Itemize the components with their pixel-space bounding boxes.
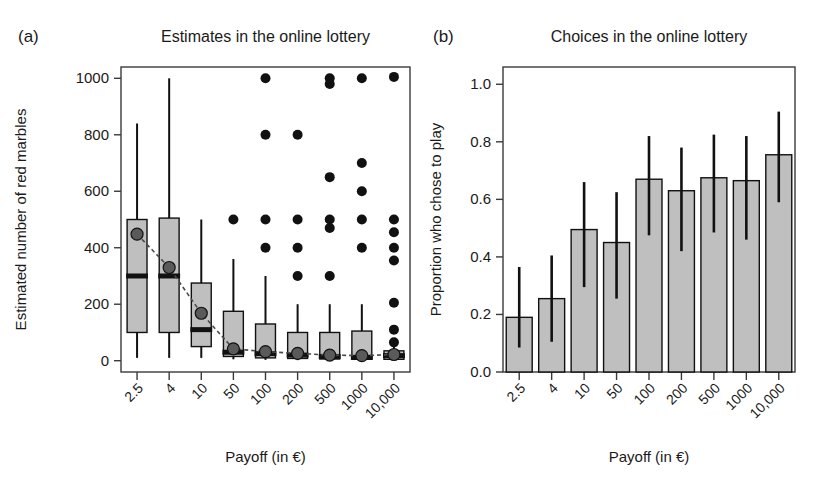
x-tick-label: 10,000 <box>746 380 788 422</box>
y-tick-label: 600 <box>84 182 109 199</box>
boxplot-group <box>383 72 405 360</box>
boxplot-group <box>351 73 373 360</box>
boxplot-group <box>319 73 341 360</box>
x-tick-label: 100 <box>247 380 275 408</box>
outlier-point <box>389 337 399 347</box>
outlier-point <box>357 186 367 196</box>
outlier-point <box>357 215 367 225</box>
x-tick-label: 100 <box>630 380 658 408</box>
y-axis: 0.00.20.40.60.81.0 <box>470 75 503 380</box>
panel-title: Estimates in the online lottery <box>161 28 370 45</box>
x-tick-label: 2.5 <box>503 380 528 405</box>
panel-letter: (b) <box>433 27 454 46</box>
boxplot-series <box>126 72 405 362</box>
mean-marker <box>131 228 143 240</box>
panel-b-choices: (b)Choices in the online lotteryProporti… <box>415 0 830 482</box>
x-tick-label: 10 <box>571 380 593 402</box>
outlier-point <box>293 271 303 281</box>
outlier-point <box>261 73 271 83</box>
outlier-point <box>325 271 335 281</box>
x-tick-label: 2.5 <box>121 380 146 405</box>
outlier-point <box>389 255 399 265</box>
x-tick-label: 500 <box>311 380 339 408</box>
outlier-point <box>293 130 303 140</box>
mean-marker <box>356 350 368 362</box>
boxplot-group <box>255 73 277 360</box>
outlier-point <box>389 227 399 237</box>
y-tick-label: 0 <box>101 352 109 369</box>
x-tick-label: 200 <box>663 380 691 408</box>
outlier-point <box>261 130 271 140</box>
mean-marker <box>388 348 400 360</box>
y-tick-label: 0.8 <box>470 133 491 150</box>
y-tick-label: 0.4 <box>470 248 491 265</box>
y-tick-label: 0.2 <box>470 305 491 322</box>
y-tick-label: 400 <box>84 239 109 256</box>
x-axis-title: Payoff (in €) <box>609 448 690 465</box>
outlier-point <box>261 215 271 225</box>
boxplot-group <box>287 130 309 360</box>
outlier-point <box>357 73 367 83</box>
y-tick-label: 1000 <box>76 69 109 86</box>
boxplot-group <box>190 220 212 358</box>
x-axis: 2.541050100200500100010,000 <box>121 372 403 421</box>
x-tick-label: 10,000 <box>361 380 403 422</box>
outlier-point <box>325 79 335 89</box>
x-tick-label: 4 <box>161 380 178 397</box>
y-tick-label: 800 <box>84 126 109 143</box>
chart-choices: (b)Choices in the online lotteryProporti… <box>415 0 830 482</box>
outlier-point <box>389 243 399 253</box>
boxplot-group <box>158 78 180 358</box>
outlier-point <box>389 215 399 225</box>
outlier-point <box>261 243 271 253</box>
x-tick-label: 50 <box>603 380 625 402</box>
bar-series <box>506 112 792 372</box>
outlier-point <box>293 215 303 225</box>
x-tick-label: 50 <box>220 380 242 402</box>
mean-marker <box>163 262 175 274</box>
x-axis: 2.541050100200500100010,000 <box>503 372 788 421</box>
outlier-point <box>325 172 335 182</box>
x-tick-label: 500 <box>695 380 723 408</box>
outlier-point <box>389 72 399 82</box>
outlier-point <box>389 298 399 308</box>
outlier-point <box>293 243 303 253</box>
panel-title: Choices in the online lottery <box>551 28 748 45</box>
y-axis-title: Proportion who chose to play <box>427 122 444 316</box>
y-axis-title: Estimated number of red marbles <box>12 109 29 331</box>
outlier-point <box>389 325 399 335</box>
mean-marker <box>292 347 304 359</box>
outlier-point <box>325 223 335 233</box>
mean-marker <box>260 346 272 358</box>
mean-marker <box>227 343 239 355</box>
x-axis-title: Payoff (in €) <box>225 448 306 465</box>
figure-root: (a)Estimates in the online lotteryEstima… <box>0 0 830 482</box>
mean-marker <box>324 349 336 361</box>
outlier-point <box>228 215 238 225</box>
panel-letter: (a) <box>18 27 39 46</box>
outlier-point <box>357 243 367 253</box>
y-tick-label: 0.0 <box>470 363 491 380</box>
y-tick-label: 0.6 <box>470 190 491 207</box>
y-axis: 02004006008001000 <box>76 69 121 368</box>
mean-marker <box>195 307 207 319</box>
boxplot-group <box>222 215 244 360</box>
panel-a-estimates: (a)Estimates in the online lotteryEstima… <box>0 0 415 482</box>
y-tick-label: 200 <box>84 295 109 312</box>
outlier-point <box>357 158 367 168</box>
y-tick-label: 1.0 <box>470 75 491 92</box>
x-tick-label: 10 <box>188 380 210 402</box>
x-tick-label: 4 <box>544 380 561 397</box>
x-tick-label: 200 <box>279 380 307 408</box>
chart-estimates: (a)Estimates in the online lotteryEstima… <box>0 0 415 482</box>
